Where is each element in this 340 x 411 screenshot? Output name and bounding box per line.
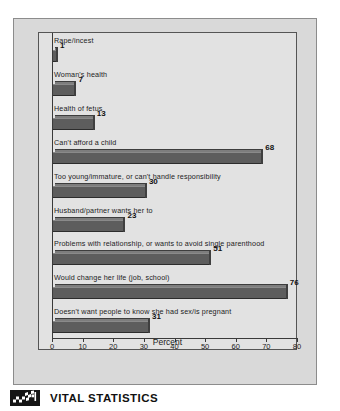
bar-top-face [55, 183, 147, 186]
bar [53, 149, 261, 164]
bar [53, 284, 286, 299]
bar-row: Problems with relationship, or wants to … [39, 239, 296, 273]
chart-plot-frame: Rape/incest1Woman's health7Health of fet… [38, 32, 297, 350]
bar-category-label: Health of fetus [54, 104, 103, 114]
bar-face [53, 118, 93, 130]
bar-face [53, 253, 209, 265]
bar-face [53, 186, 145, 198]
bar-top-face [55, 115, 95, 118]
bar-value-label: 7 [78, 75, 82, 84]
bar-side-face [286, 284, 288, 299]
bar-top-face [55, 217, 125, 220]
bar-side-face [56, 47, 58, 62]
bar-category-label: Would change her life (job, school) [54, 273, 170, 283]
bar-value-label: 68 [265, 143, 274, 152]
bar-category-label: Husband/partner wants her to [54, 206, 153, 216]
bar-category-label: Too young/immature, or can't handle resp… [54, 172, 221, 182]
bar-value-label: 31 [152, 312, 161, 321]
x-axis-title: Percent [39, 337, 296, 347]
bar [53, 47, 56, 62]
bar-value-label: 30 [149, 177, 158, 186]
bar-top-face [55, 81, 76, 84]
bar-top-face [55, 250, 211, 253]
bar-face [53, 152, 261, 164]
bar-top-face [55, 318, 150, 321]
bar-value-label: 1 [60, 41, 64, 50]
bar-row: Can't afford a child68 [39, 138, 296, 172]
figure-card: Rape/incest1Woman's health7Health of fet… [13, 18, 317, 385]
bar-row: Would change her life (job, school)76 [39, 273, 296, 307]
bar-face [53, 220, 123, 232]
bar-category-label: Can't afford a child [54, 138, 116, 148]
bar-side-face [123, 217, 125, 232]
bar-category-label: Doesn't want people to know she had sex/… [54, 307, 231, 317]
footer-brand: VITAL STATISTICS [10, 388, 158, 408]
bar-value-label: 13 [97, 109, 106, 118]
checkered-flag-icon [10, 390, 40, 406]
bar-category-label: Problems with relationship, or wants to … [54, 239, 264, 249]
bar-side-face [261, 149, 263, 164]
chart-plot-area: Rape/incest1Woman's health7Health of fet… [39, 33, 296, 349]
bar [53, 183, 145, 198]
bar-face [53, 84, 74, 96]
bar-row: Rape/incest1 [39, 36, 296, 70]
bar-top-face [55, 149, 263, 152]
bar-value-label: 23 [127, 211, 136, 220]
bar-row: Woman's health7 [39, 70, 296, 104]
bar-row: Too young/immature, or can't handle resp… [39, 172, 296, 206]
bar [53, 115, 93, 130]
bar-row: Health of fetus13 [39, 104, 296, 138]
bar-row: Husband/partner wants her to23 [39, 206, 296, 240]
bar-value-label: 76 [290, 278, 299, 287]
bar-face [53, 287, 286, 299]
bar-value-label: 51 [213, 244, 222, 253]
bar-side-face [209, 250, 211, 265]
brand-title: VITAL STATISTICS [50, 392, 158, 404]
bar [53, 250, 209, 265]
bar-side-face [148, 318, 150, 333]
bar-face [53, 321, 148, 333]
bar-side-face [145, 183, 147, 198]
bar-side-face [93, 115, 95, 130]
bar-top-face [55, 284, 288, 287]
bar [53, 217, 123, 232]
bar-side-face [74, 81, 76, 96]
bar [53, 318, 148, 333]
bar [53, 81, 74, 96]
